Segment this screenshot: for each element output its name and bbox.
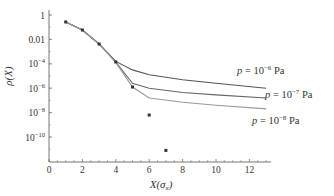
x-tick-label: 8 [180, 165, 185, 175]
x-tick-label: 10 [211, 165, 221, 175]
data-point [164, 149, 167, 152]
y-tick-label: 1 [40, 11, 45, 21]
y-tick-label: 10−6 [29, 82, 46, 94]
series-label-7: p = 10−7 Pa [264, 88, 313, 100]
y-axis-label: ρ(X) [2, 66, 15, 87]
curve-p-6 [66, 22, 266, 88]
data-point [148, 114, 151, 117]
x-tick-label: 4 [113, 165, 118, 175]
series-label-6: p = 10−6 Pa [236, 64, 285, 76]
data-point [131, 85, 134, 88]
data-points [64, 20, 167, 151]
data-point [114, 60, 117, 63]
data-point [64, 20, 67, 23]
x-tick-label: 0 [47, 165, 52, 175]
y-tick-label: 10−8 [29, 106, 45, 118]
x-tick-label: 6 [147, 165, 152, 175]
x-tick-label: 12 [245, 165, 255, 175]
data-point [98, 43, 101, 46]
chart-canvas: 02468101210.0110−410−610−810−10p = 10−6 … [0, 0, 334, 196]
x-tick-label: 2 [80, 165, 85, 175]
curve-p-7 [66, 22, 266, 98]
y-tick-label: 10−4 [29, 57, 46, 69]
x-axis-label: X(σx) [149, 178, 173, 192]
data-point [81, 29, 84, 32]
y-tick-label: 10−10 [25, 131, 45, 143]
axes [49, 10, 271, 162]
y-tick-label: 0.01 [28, 35, 45, 45]
series-label-8: p = 10−8 Pa [251, 114, 300, 126]
